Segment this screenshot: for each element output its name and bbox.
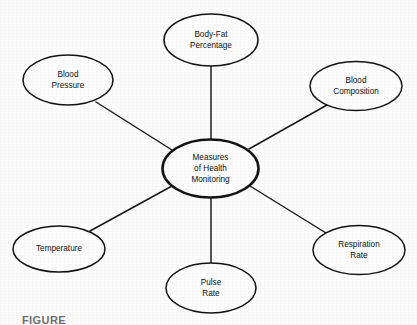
node-label-body-fat-percentage: Body-Fat xyxy=(194,30,228,39)
node-label-measures-of-health-monitoring: Measures xyxy=(193,153,229,162)
concept-map-diagram: Body-FatPercentageBloodCompositionRespir… xyxy=(0,0,417,325)
node-temperature[interactable]: Temperature xyxy=(13,226,105,272)
node-label-temperature: Temperature xyxy=(36,244,82,253)
node-label-measures-of-health-monitoring: Monitoring xyxy=(191,175,230,184)
edge-temperature xyxy=(90,186,172,231)
node-pulse-rate[interactable]: PulseRate xyxy=(166,263,256,313)
node-respiration-rate[interactable]: RespirationRate xyxy=(313,226,405,275)
node-label-blood-pressure: Blood xyxy=(58,70,79,79)
figure-caption-text: FIGURE xyxy=(22,314,66,325)
node-blood-composition[interactable]: BloodComposition xyxy=(310,62,402,111)
node-label-pulse-rate: Rate xyxy=(202,289,220,298)
node-label-blood-composition: Blood xyxy=(346,76,367,85)
node-label-pulse-rate: Pulse xyxy=(201,278,222,287)
edge-blood-pressure xyxy=(96,102,172,150)
node-label-blood-composition: Composition xyxy=(333,87,379,96)
node-label-respiration-rate: Rate xyxy=(350,251,368,260)
node-blood-pressure[interactable]: BloodPressure xyxy=(23,55,113,105)
node-label-measures-of-health-monitoring: of Health xyxy=(194,164,227,173)
node-measures-of-health-monitoring[interactable]: Measuresof HealthMonitoring xyxy=(163,140,259,198)
node-label-body-fat-percentage: Percentage xyxy=(190,41,232,50)
node-label-respiration-rate: Respiration xyxy=(338,240,380,249)
node-body-fat-percentage[interactable]: Body-FatPercentage xyxy=(164,14,258,66)
figure-caption-strip: FIGURE xyxy=(0,314,417,325)
node-label-blood-pressure: Pressure xyxy=(52,81,85,90)
edge-blood-composition xyxy=(249,105,327,149)
figure-container: Body-FatPercentageBloodCompositionRespir… xyxy=(0,0,417,325)
edge-respiration-rate xyxy=(250,186,326,233)
nodes-group: Body-FatPercentageBloodCompositionRespir… xyxy=(13,14,405,313)
